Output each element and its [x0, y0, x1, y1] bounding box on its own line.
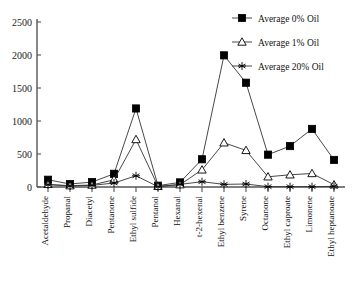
datapoint-s1-13-marker-square	[330, 156, 337, 163]
datapoint-s3-4-marker-asterisk	[132, 172, 140, 180]
datapoint-s1-4-marker-square	[132, 105, 139, 112]
datapoint-s2-8-marker-triangle	[220, 139, 228, 146]
legend-2-marker-triangle	[238, 38, 246, 45]
chart-container: 05001000150020002500 AcetaldehydePropana…	[0, 0, 354, 283]
legend-label: Average 20% Oil	[258, 62, 324, 72]
series-line-1	[48, 55, 334, 185]
x-axis-tick-label: Diacetyl	[84, 196, 94, 227]
legend-label: Average 1% Oil	[258, 38, 319, 48]
x-axis-tick-label: Limonene	[304, 196, 314, 233]
y-axis: 05001000150020002500	[12, 17, 41, 193]
datapoint-s1-12-marker-square	[308, 125, 315, 132]
legend-item-3[interactable]: Average 20% Oil	[232, 62, 324, 72]
datapoint-s1-9-marker-square	[242, 79, 249, 86]
legend-item-1[interactable]: Average 0% Oil	[232, 14, 319, 24]
x-axis-tick-label: Ethyl sulfide	[128, 196, 138, 242]
datapoint-s3-10-marker-asterisk	[264, 183, 272, 191]
x-axis-tick-label: Acetaldehyde	[40, 196, 50, 245]
datapoint-s3-11-marker-asterisk	[286, 183, 294, 191]
line-chart: 05001000150020002500 AcetaldehydePropana…	[0, 0, 354, 283]
legend-label: Average 0% Oil	[258, 14, 319, 24]
y-axis-tick-label: 2500	[12, 17, 32, 28]
x-axis-tick-label: Ethyl benzene	[216, 196, 226, 247]
x-axis-tick-label: Ethyl heptanoate	[326, 196, 336, 257]
series-layer	[44, 52, 338, 191]
x-axis-tick-labels: AcetaldehydePropanalDiacetylPentanoneEth…	[40, 196, 336, 257]
datapoint-s1-7-marker-square	[198, 156, 205, 163]
legend-1-marker-square	[238, 14, 245, 21]
y-axis-tick-label: 0	[27, 182, 32, 193]
datapoint-s3-12-marker-asterisk	[308, 183, 316, 191]
x-axis-tick-label: Pentanol	[150, 196, 160, 228]
x-axis-tick-label: Hexanal	[172, 196, 182, 226]
y-axis-tick-label: 1000	[12, 116, 32, 127]
y-axis-tick-label: 2000	[12, 50, 32, 61]
chart-legend: Average 0% OilAverage 1% OilAverage 20% …	[232, 14, 324, 72]
datapoint-s2-4-marker-triangle	[132, 135, 140, 142]
datapoint-s1-11-marker-square	[286, 142, 293, 149]
datapoint-s2-9-marker-triangle	[242, 146, 250, 153]
x-axis-tick-label: t-2-hexenal	[194, 196, 204, 237]
datapoint-s1-10-marker-square	[264, 151, 271, 158]
x-axis-tick-label: Octanone	[260, 196, 270, 230]
datapoint-s1-8-marker-square	[220, 52, 227, 59]
legend-3-marker-asterisk	[238, 62, 246, 70]
datapoint-s2-12-marker-triangle	[308, 169, 316, 176]
series-1	[44, 52, 337, 190]
y-axis-tick-label: 500	[17, 149, 32, 160]
x-axis-tick-label: Syrene	[238, 196, 248, 221]
x-axis-tick-label: Pentanone	[106, 196, 116, 234]
datapoint-s3-7-marker-asterisk	[198, 178, 206, 186]
legend-item-2[interactable]: Average 1% Oil	[232, 38, 319, 48]
y-axis-tick-label: 1500	[12, 83, 32, 94]
x-axis	[37, 187, 345, 192]
x-axis-tick-label: Ethyl caproate	[282, 196, 292, 248]
x-axis-tick-label: Propanal	[62, 196, 72, 228]
